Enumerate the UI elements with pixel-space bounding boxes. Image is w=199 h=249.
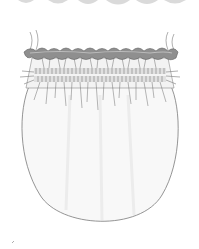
corner-mark [12,241,14,243]
ruffle-band [24,48,178,60]
pouch-illustration [0,0,199,249]
top-scallop-edge [18,0,186,5]
